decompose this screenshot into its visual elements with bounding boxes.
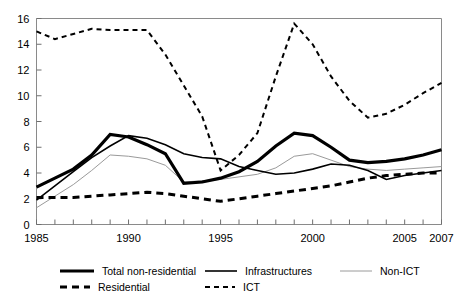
x-tick-label: 2007 <box>429 232 453 244</box>
legend-item-ict[interactable]: ICT <box>205 281 261 293</box>
y-tick-label: 4 <box>23 167 29 179</box>
x-tick-label: 2000 <box>300 232 324 244</box>
legend-label: Residential <box>98 281 150 293</box>
x-tick-label: 2005 <box>392 232 416 244</box>
legend-label: Non-ICT <box>380 265 420 277</box>
legend-label: ICT <box>243 281 261 293</box>
plot-border <box>37 19 442 225</box>
series-line-infrastructures <box>37 136 442 200</box>
x-axis-labels: 198519901995200020052007 <box>24 232 453 244</box>
y-tick-label: 6 <box>23 141 29 153</box>
legend-item-residential[interactable]: Residential <box>60 281 150 293</box>
legend-item-total-non-residential[interactable]: Total non-residential <box>60 265 196 277</box>
line-chart: 0246810121416 198519901995200020052007 T… <box>0 0 464 303</box>
chart-canvas: 0246810121416 198519901995200020052007 T… <box>0 0 464 303</box>
series-line-total-non-residential <box>37 133 442 187</box>
chart-legend: Total non-residentialInfrastructuresNon-… <box>60 265 420 293</box>
y-tick-label: 8 <box>23 116 29 128</box>
legend-label: Infrastructures <box>245 265 312 277</box>
x-tick-label: 1990 <box>116 232 140 244</box>
y-axis-ticks <box>37 19 42 225</box>
y-tick-label: 0 <box>23 219 29 231</box>
legend-item-non-ict[interactable]: Non-ICT <box>340 265 420 277</box>
y-axis-labels: 0246810121416 <box>17 13 29 231</box>
y-tick-label: 16 <box>17 13 29 25</box>
legend-label: Total non-residential <box>102 265 196 277</box>
y-tick-label: 12 <box>17 64 29 76</box>
y-tick-label: 10 <box>17 90 29 102</box>
x-tick-label: 1995 <box>208 232 232 244</box>
series-group <box>37 24 442 208</box>
plot-frame <box>37 19 442 225</box>
x-axis-ticks <box>37 220 442 225</box>
legend-item-infrastructures[interactable]: Infrastructures <box>205 265 312 277</box>
y-tick-label: 2 <box>23 193 29 205</box>
x-tick-label: 1985 <box>24 232 48 244</box>
y-tick-label: 14 <box>17 38 29 50</box>
